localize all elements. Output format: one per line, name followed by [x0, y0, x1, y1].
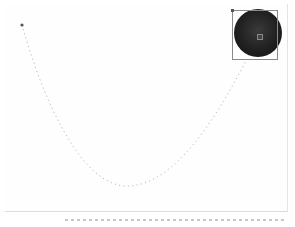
status-bar	[0, 213, 295, 227]
corner-handle[interactable]	[231, 9, 234, 12]
selection-bounding-box[interactable]	[232, 10, 278, 60]
pivot-icon[interactable]	[257, 34, 263, 40]
status-text-placeholder	[65, 219, 285, 221]
path-start-keyframe[interactable]	[20, 23, 23, 26]
